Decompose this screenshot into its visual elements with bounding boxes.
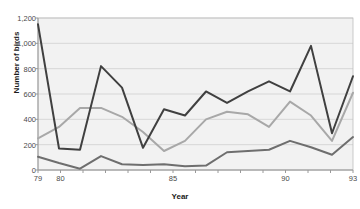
x-tick-label: 79 [34, 174, 42, 183]
x-tick-label: 93 [349, 174, 357, 183]
x-axis-title: Year [0, 192, 360, 201]
plot-area [0, 0, 360, 209]
bird-count-line-chart: Number of birds 02004006008001,0001,200 … [0, 0, 360, 209]
x-tick-label: 85 [169, 174, 177, 183]
x-tick-label: 80 [56, 174, 64, 183]
x-tick-label: 90 [281, 174, 289, 183]
